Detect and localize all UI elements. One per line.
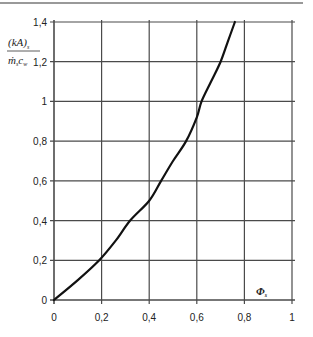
y-tick-label: 0 bbox=[41, 295, 47, 306]
y-tick-label: 0,6 bbox=[33, 176, 47, 187]
x-tick-label: 0,4 bbox=[142, 312, 156, 323]
x-axis-label: Φs bbox=[256, 285, 268, 298]
y-tick-label: 0,4 bbox=[33, 216, 47, 227]
y-tick-label: 1,2 bbox=[33, 57, 47, 68]
y-tick-label: 1,4 bbox=[33, 17, 47, 28]
y-tick-label: 0,8 bbox=[33, 136, 47, 147]
svg-text:ṁscw: ṁscw bbox=[8, 54, 27, 67]
x-tick-label: 0,6 bbox=[190, 312, 204, 323]
svg-text:(kA)s: (kA)s bbox=[8, 36, 30, 50]
y-tick-labels: 00,20,40,60,811,21,4 bbox=[33, 17, 47, 306]
x-tick-label: 1 bbox=[289, 312, 295, 323]
data-curve bbox=[54, 22, 235, 300]
y-tick-label: 1 bbox=[41, 96, 47, 107]
y-tick-label: 0,2 bbox=[33, 255, 47, 266]
x-tick-label: 0,8 bbox=[237, 312, 251, 323]
x-tick-labels: 00,20,40,60,81 bbox=[51, 312, 295, 323]
x-tick-label: 0,2 bbox=[95, 312, 109, 323]
chart: 00,20,40,60,81 00,20,40,60,811,21,4 (kA)… bbox=[0, 0, 313, 337]
svg-text:Φs: Φs bbox=[256, 285, 268, 298]
x-tick-label: 0 bbox=[51, 312, 57, 323]
